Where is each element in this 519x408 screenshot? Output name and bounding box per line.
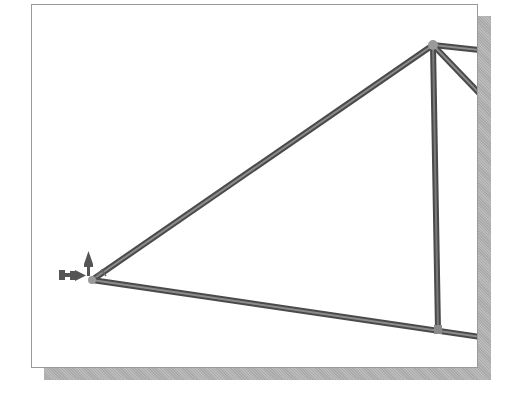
joint-top[interactable] <box>428 40 438 50</box>
joint-bottom[interactable] <box>434 325 442 334</box>
member-vertical[interactable] <box>433 45 438 330</box>
truss-members <box>92 45 480 337</box>
member-right-diagonal[interactable] <box>433 45 480 94</box>
member-left-diagonal[interactable] <box>92 45 433 280</box>
member-bottom-chord[interactable] <box>92 280 480 337</box>
diagram-stage <box>0 0 519 408</box>
truss-drawing <box>0 0 519 408</box>
joint-support[interactable] <box>88 276 96 284</box>
